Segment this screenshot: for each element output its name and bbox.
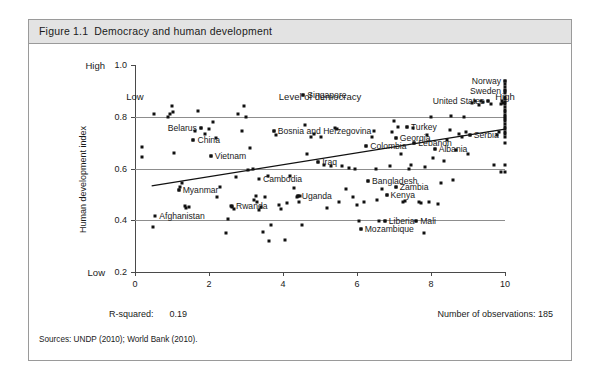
- data-point: [245, 115, 248, 118]
- data-point: [370, 136, 373, 139]
- figure-number: Figure 1.1: [39, 25, 88, 37]
- country-label: Colombia: [370, 141, 406, 151]
- data-point: [419, 202, 422, 205]
- x-tick-label: 8: [428, 279, 433, 289]
- data-point: [270, 224, 273, 227]
- x-tick: [283, 272, 284, 276]
- x-tick: [135, 272, 136, 276]
- data-point: [219, 185, 222, 188]
- data-point: [248, 146, 251, 149]
- data-point: [381, 188, 384, 191]
- country-label: Vietnam: [215, 151, 246, 161]
- country-label: Myanmar: [183, 185, 219, 195]
- y-tick-label: 0.8: [114, 112, 127, 122]
- data-point: [462, 115, 465, 118]
- country-label: Sweden: [470, 86, 501, 96]
- data-point: [394, 136, 397, 139]
- data-point: [450, 115, 453, 118]
- y-tick-label: 0.6: [114, 164, 127, 174]
- data-point: [264, 195, 267, 198]
- data-point: [465, 130, 468, 133]
- data-point: [166, 115, 169, 118]
- data-point: [251, 168, 254, 171]
- data-point: [391, 131, 394, 134]
- data-point: [177, 188, 180, 191]
- data-point: [397, 126, 400, 129]
- country-label: China: [197, 135, 219, 145]
- data-point: [489, 103, 492, 106]
- data-point: [428, 201, 431, 204]
- data-point: [196, 110, 199, 113]
- data-point: [241, 129, 244, 132]
- data-point: [277, 203, 280, 206]
- data-point: [388, 164, 391, 167]
- country-label: Norway: [472, 76, 501, 86]
- data-point: [430, 115, 433, 118]
- data-point: [424, 166, 427, 169]
- data-point: [383, 219, 386, 222]
- data-point: [504, 79, 507, 82]
- statistics-row: R-squared:0.19 Number of observations: 1…: [29, 309, 571, 325]
- data-point: [154, 215, 157, 218]
- data-point: [317, 161, 320, 164]
- data-point: [344, 188, 347, 191]
- x-tick: [431, 272, 432, 276]
- country-label: Cambodia: [263, 174, 302, 184]
- data-point: [405, 126, 408, 129]
- data-point: [309, 136, 312, 139]
- scatter-plot: 1.00.80.60.40.2 0246810 High Low Human d…: [135, 65, 505, 272]
- data-point: [448, 129, 451, 132]
- data-point: [372, 129, 375, 132]
- data-point: [367, 180, 370, 183]
- data-point: [300, 224, 303, 227]
- data-point: [359, 228, 362, 231]
- x-tick-label: 2: [206, 279, 211, 289]
- r-squared-value: 0.19: [170, 309, 188, 319]
- x-axis: [135, 272, 505, 273]
- country-label: Uganda: [302, 191, 332, 201]
- x-tick: [505, 272, 506, 276]
- data-point: [227, 218, 230, 221]
- data-point: [296, 194, 299, 197]
- data-point: [499, 102, 502, 105]
- data-point: [216, 195, 219, 198]
- country-label: Turkey: [411, 122, 437, 132]
- data-point: [306, 153, 309, 156]
- x-tick: [209, 272, 210, 276]
- country-label: Rwanda: [236, 201, 268, 211]
- data-point: [504, 141, 507, 144]
- y-axis-high-label: High: [85, 60, 105, 71]
- data-point: [409, 164, 412, 167]
- data-point: [234, 175, 237, 178]
- data-point: [352, 195, 355, 198]
- y-tick-label: 1.0: [114, 60, 127, 70]
- country-label: Mali: [420, 216, 436, 226]
- data-point: [230, 205, 233, 208]
- data-point: [243, 104, 246, 107]
- data-point: [487, 100, 490, 103]
- country-label: Mozambique: [365, 224, 414, 234]
- data-point: [257, 177, 260, 180]
- data-point: [267, 240, 270, 243]
- x-tick: [357, 272, 358, 276]
- data-point: [261, 230, 264, 233]
- data-point: [169, 112, 172, 115]
- data-point: [140, 145, 143, 148]
- data-point: [341, 165, 344, 168]
- country-label: Singapore: [307, 90, 346, 100]
- country-label: Bosnia and Herzegovina: [278, 126, 372, 136]
- country-label: Iraq: [322, 157, 337, 167]
- data-point: [236, 113, 239, 116]
- data-point: [152, 112, 155, 115]
- data-point: [280, 208, 283, 211]
- observations-count: Number of observations: 185: [437, 309, 553, 319]
- data-point: [378, 219, 381, 222]
- data-point: [283, 239, 286, 242]
- y-axis-title: Human development index: [78, 126, 88, 233]
- data-point: [452, 179, 455, 182]
- data-point: [393, 120, 396, 123]
- data-point: [376, 199, 379, 202]
- x-tick-label: 10: [500, 279, 510, 289]
- data-point: [199, 127, 202, 130]
- r-squared-stat: R-squared:0.19: [109, 309, 187, 319]
